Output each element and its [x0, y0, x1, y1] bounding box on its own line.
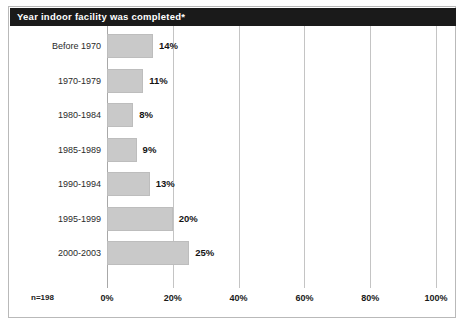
sample-size-label: n=198	[31, 293, 54, 302]
x-tick-label: 20%	[164, 293, 182, 303]
x-tick-label: 0%	[100, 293, 113, 303]
plot-area: Before 197014%1970-197911%1980-19848%198…	[9, 26, 455, 317]
x-tick-label: 40%	[230, 293, 248, 303]
bar	[107, 103, 133, 127]
category-label: 1980-1984	[9, 98, 101, 133]
bar	[107, 34, 153, 58]
category-label: 1995-1999	[9, 202, 101, 237]
x-axis-tick-labels: n=198 0%20%40%60%80%100%	[9, 288, 455, 317]
category-label: 2000-2003	[9, 236, 101, 271]
category-label: 1970-1979	[9, 64, 101, 99]
bar-value-label: 14%	[159, 29, 178, 64]
x-tick-label: 100%	[424, 293, 447, 303]
category-label: 1990-1994	[9, 167, 101, 202]
bar-rows: Before 197014%1970-197911%1980-19848%198…	[9, 26, 455, 288]
bar-value-label: 25%	[195, 236, 214, 271]
bar-value-label: 8%	[139, 98, 153, 133]
bar-value-label: 11%	[149, 64, 168, 99]
x-tick-label: 60%	[295, 293, 313, 303]
chart-title: Year indoor facility was completed*	[10, 8, 456, 26]
bar-row: 1985-19899%	[9, 133, 455, 168]
bar	[107, 172, 150, 196]
bar	[107, 207, 173, 231]
bar-row: 1990-199413%	[9, 167, 455, 202]
bar-row: 1970-197911%	[9, 64, 455, 99]
bar-row: 1980-19848%	[9, 98, 455, 133]
bar-value-label: 9%	[143, 133, 157, 168]
bar-row: 2000-200325%	[9, 236, 455, 271]
bar-row: 1995-199920%	[9, 202, 455, 237]
x-tick-label: 80%	[361, 293, 379, 303]
bar	[107, 69, 143, 93]
bar	[107, 241, 189, 265]
bar	[107, 138, 137, 162]
bar-row: Before 197014%	[9, 29, 455, 64]
category-label: 1985-1989	[9, 133, 101, 168]
bar-value-label: 20%	[179, 202, 198, 237]
chart-container: Year indoor facility was completed* Befo…	[8, 6, 456, 318]
bar-value-label: 13%	[156, 167, 175, 202]
category-label: Before 1970	[9, 29, 101, 64]
